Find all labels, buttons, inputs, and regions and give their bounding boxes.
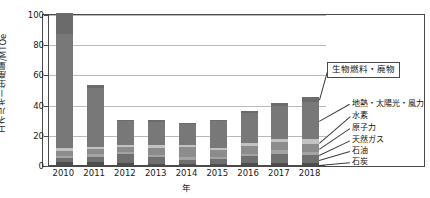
bar-segment	[56, 148, 73, 151]
y-axis-title: エネルギー生産量/MTOe	[0, 16, 12, 150]
gridline	[49, 45, 326, 46]
bar-segment	[271, 163, 288, 165]
x-tick-label: 2011	[78, 169, 110, 178]
bar-segment	[179, 124, 196, 144]
bar-segment	[148, 157, 165, 163]
bar-segment	[117, 120, 134, 122]
bar-segment	[56, 156, 73, 158]
bar-segment	[241, 163, 258, 165]
bar-segment	[302, 97, 319, 102]
bar-segment	[210, 150, 227, 157]
bar-segment	[56, 13, 73, 34]
plot-area	[48, 15, 325, 166]
bar-segment	[148, 155, 165, 157]
bar-segment	[210, 164, 227, 166]
bar-segment	[179, 157, 196, 160]
bar-segment	[148, 148, 165, 156]
bar-segment	[87, 147, 104, 149]
bar-segment	[241, 156, 258, 163]
bar-segment	[210, 157, 227, 159]
bar-segment	[117, 145, 134, 147]
bar-segment	[117, 163, 134, 165]
bar-segment	[179, 147, 196, 157]
bar-segment	[148, 164, 165, 166]
bar-segment	[117, 154, 134, 162]
bar-segment	[87, 154, 104, 156]
bar-2013	[148, 120, 165, 165]
bar-segment	[271, 154, 288, 162]
x-axis-title: 年	[48, 184, 325, 193]
bar-segment	[87, 162, 104, 165]
bar-segment	[87, 157, 104, 162]
bar-segment	[56, 162, 73, 165]
legend-item-4: 天然ガス	[352, 136, 384, 145]
bar-segment	[302, 144, 319, 152]
bar-segment	[56, 151, 73, 156]
bar-segment	[148, 145, 165, 147]
bar-segment	[148, 122, 165, 145]
x-tick-label: 2016	[232, 169, 264, 178]
bar-segment	[241, 143, 258, 146]
bar-segment	[117, 152, 134, 154]
gridline	[49, 15, 326, 16]
bar-segment	[56, 158, 73, 162]
chart-figure: エネルギー生産量/MTOe 020406080100 2010201120122…	[0, 0, 430, 198]
bar-segment	[87, 88, 104, 147]
legend-item-5: 石油	[352, 147, 368, 156]
bar-segment	[179, 145, 196, 147]
legend-item-1: 地熱・太陽光・風力	[352, 100, 424, 109]
y-tick-label: 100	[16, 11, 44, 20]
bar-2018	[302, 97, 319, 165]
legend-item-6: 石炭	[352, 158, 368, 167]
bar-segment	[302, 163, 319, 165]
bar-2017	[271, 103, 288, 165]
x-tick-label: 2012	[109, 169, 141, 178]
bar-segment	[179, 160, 196, 164]
y-tick-label: 80	[16, 41, 44, 50]
y-tick-label: 40	[16, 102, 44, 111]
y-tick-label: 20	[16, 132, 44, 141]
bar-2016	[241, 111, 258, 165]
bar-segment	[302, 155, 319, 163]
bar-2015	[210, 120, 227, 165]
bar-segment	[179, 164, 196, 166]
bar-2011	[87, 85, 104, 165]
legend-item-2: 水素	[352, 112, 368, 121]
bar-segment	[179, 123, 196, 125]
x-tick-label: 2018	[294, 169, 326, 178]
gridline	[49, 75, 326, 76]
bar-2014	[179, 123, 196, 165]
bar-segment	[117, 121, 134, 144]
bar-segment	[148, 120, 165, 122]
bar-segment	[56, 34, 73, 149]
bar-segment	[210, 148, 227, 150]
x-tick-label: 2010	[47, 169, 79, 178]
bar-segment	[241, 111, 258, 113]
x-tick-label: 2014	[171, 169, 203, 178]
bar-segment	[271, 142, 288, 150]
bar-segment	[210, 159, 227, 164]
bar-segment	[302, 152, 319, 155]
bar-segment	[87, 85, 104, 88]
y-tick-label: 60	[16, 71, 44, 80]
bar-2010	[56, 13, 73, 166]
bar-segment	[87, 149, 104, 154]
bar-segment	[271, 106, 288, 139]
bar-segment	[241, 154, 258, 156]
y-tick-mark	[44, 166, 48, 167]
bar-segment	[210, 121, 227, 147]
bar-segment	[271, 150, 288, 155]
x-tick-label: 2015	[201, 169, 233, 178]
bar-segment	[271, 139, 288, 142]
bar-segment	[241, 146, 258, 154]
bar-segment	[210, 120, 227, 122]
legend-item-3: 原子力	[352, 124, 376, 133]
x-tick-label: 2017	[263, 169, 295, 178]
y-tick-label: 0	[16, 162, 44, 171]
callout-biofuel-waste: 生物燃料・廃物	[327, 62, 400, 78]
bar-2012	[117, 120, 134, 165]
bar-segment	[241, 113, 258, 143]
x-tick-label: 2013	[140, 169, 172, 178]
bar-segment	[117, 147, 134, 152]
bar-segment	[302, 102, 319, 140]
